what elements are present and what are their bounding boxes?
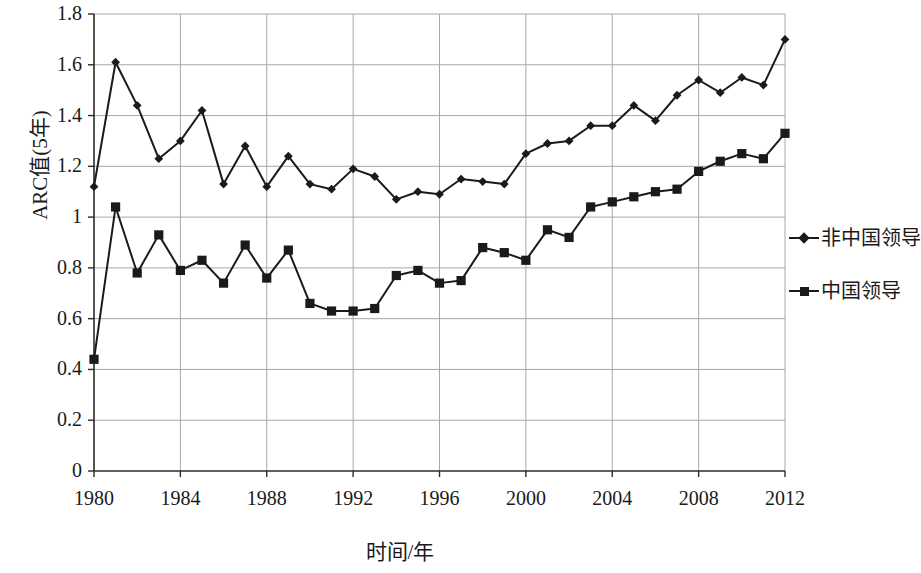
y-tick-label: 0 bbox=[28, 460, 82, 480]
data-point-marker bbox=[414, 187, 423, 196]
x-axis-title: 时间/年 bbox=[0, 535, 800, 565]
data-point-marker bbox=[456, 276, 465, 285]
data-point-marker bbox=[133, 268, 142, 277]
data-point-marker bbox=[759, 154, 768, 163]
data-point-marker bbox=[262, 273, 271, 282]
legend-item-non-chinese-led[interactable]: 非中国领导 bbox=[789, 228, 921, 248]
data-point-marker bbox=[608, 197, 617, 206]
x-tick-label: 1980 bbox=[59, 488, 129, 508]
data-point-marker bbox=[586, 202, 595, 211]
y-tick-label: 1.2 bbox=[28, 155, 82, 175]
y-tick-label: 0.8 bbox=[28, 257, 82, 277]
data-point-marker bbox=[500, 248, 509, 257]
data-point-marker bbox=[241, 142, 250, 151]
legend-label-chinese-led: 中国领导 bbox=[821, 281, 901, 301]
data-point-marker bbox=[133, 101, 142, 110]
data-point-marker bbox=[111, 58, 120, 67]
data-point-marker bbox=[672, 185, 681, 194]
y-tick-label: 0.4 bbox=[28, 358, 82, 378]
data-point-marker bbox=[780, 129, 789, 138]
legend-item-chinese-led[interactable]: 中国领导 bbox=[789, 281, 901, 301]
data-point-marker bbox=[716, 157, 725, 166]
x-tick-label: 1996 bbox=[405, 488, 475, 508]
data-point-marker bbox=[543, 139, 552, 148]
data-point-marker bbox=[349, 306, 358, 315]
data-point-marker bbox=[197, 256, 206, 265]
y-tick-label: 0.2 bbox=[28, 409, 82, 429]
y-tick-label: 1.8 bbox=[28, 3, 82, 23]
data-point-marker bbox=[694, 167, 703, 176]
data-point-marker bbox=[305, 299, 314, 308]
y-tick-label: 1 bbox=[28, 206, 82, 226]
data-point-marker bbox=[241, 240, 250, 249]
x-tick-label: 1988 bbox=[232, 488, 302, 508]
x-tick-label: 1984 bbox=[145, 488, 215, 508]
x-tick-label: 1992 bbox=[318, 488, 388, 508]
x-tick-label: 2000 bbox=[491, 488, 561, 508]
data-point-marker bbox=[564, 233, 573, 242]
data-point-marker bbox=[737, 149, 746, 158]
x-tick-label: 2008 bbox=[664, 488, 734, 508]
legend-marker-diamond-icon bbox=[789, 231, 819, 245]
data-point-marker bbox=[284, 246, 293, 255]
data-point-marker bbox=[478, 243, 487, 252]
data-point-marker bbox=[327, 306, 336, 315]
y-tick-label: 1.6 bbox=[28, 54, 82, 74]
data-point-marker bbox=[521, 256, 530, 265]
y-tick-label: 1.4 bbox=[28, 105, 82, 125]
y-tick-label: 0.6 bbox=[28, 308, 82, 328]
legend-marker-square-icon bbox=[789, 284, 819, 298]
data-point-marker bbox=[413, 266, 422, 275]
data-point-marker bbox=[176, 266, 185, 275]
data-point-marker bbox=[478, 177, 487, 186]
chart-figure: ARC值(5年) 时间/年 1.81.61.41.210.80.60.40.20… bbox=[0, 0, 921, 573]
data-point-marker bbox=[759, 81, 768, 90]
data-point-marker bbox=[219, 279, 228, 288]
data-point-marker bbox=[651, 187, 660, 196]
legend-label-non-chinese-led: 非中国领导 bbox=[821, 228, 921, 248]
x-tick-label: 2004 bbox=[577, 488, 647, 508]
data-point-marker bbox=[392, 271, 401, 280]
data-point-marker bbox=[781, 35, 790, 44]
data-point-marker bbox=[435, 279, 444, 288]
data-point-marker bbox=[543, 225, 552, 234]
data-point-marker bbox=[89, 355, 98, 364]
data-point-marker bbox=[629, 192, 638, 201]
data-point-marker bbox=[90, 182, 99, 191]
x-tick-label: 2012 bbox=[750, 488, 820, 508]
data-point-marker bbox=[370, 304, 379, 313]
data-point-marker bbox=[154, 230, 163, 239]
data-point-marker bbox=[219, 180, 228, 189]
data-point-marker bbox=[111, 202, 120, 211]
